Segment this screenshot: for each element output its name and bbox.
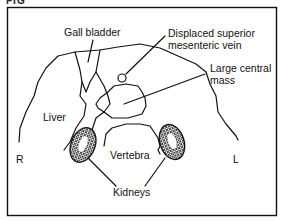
label-gall-bladder: Gall bladder xyxy=(64,26,121,38)
label-liver: Liver xyxy=(43,111,66,123)
label-mass-line2: mass xyxy=(210,74,235,86)
label-smv-line2: mesenteric vein xyxy=(168,39,242,51)
label-vertebra: Vertebra xyxy=(110,149,150,161)
gall-bladder-outline xyxy=(75,50,100,92)
label-mass-line1: Large central xyxy=(210,62,271,74)
label-left: L xyxy=(233,153,239,165)
label-smv-line1: Displaced superior xyxy=(168,27,255,39)
abdominal-outline xyxy=(19,44,238,142)
kidney-right-leader xyxy=(88,158,116,186)
ct-diagram: Gall bladder Displaced superior mesenter… xyxy=(0,0,281,221)
smv-leader xyxy=(126,36,165,74)
liver-inner-boundary xyxy=(92,72,110,140)
kidney-left-leader xyxy=(145,158,165,186)
label-kidneys: Kidneys xyxy=(113,186,150,198)
label-right: R xyxy=(16,153,24,165)
mass-leader xyxy=(124,74,205,104)
smv-circle xyxy=(118,74,126,82)
